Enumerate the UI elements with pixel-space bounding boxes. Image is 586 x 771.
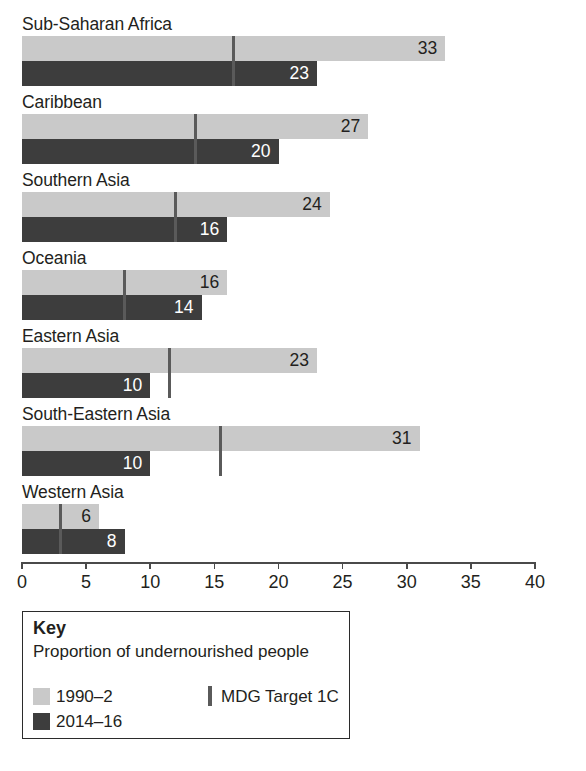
bar-track: 16 bbox=[0, 217, 586, 242]
chart-group: Oceania1614 bbox=[0, 248, 586, 320]
bar-value-label: 33 bbox=[413, 36, 437, 61]
category-label: Western Asia bbox=[22, 482, 124, 502]
bar-value-label: 20 bbox=[247, 139, 271, 164]
mdg-target-marker bbox=[194, 114, 197, 164]
chart-key: Key Proportion of undernourished people … bbox=[22, 611, 350, 739]
bar-dark bbox=[22, 61, 317, 86]
axis-tick bbox=[278, 562, 280, 569]
bar-value-label: 23 bbox=[285, 348, 309, 373]
bar-value-label: 10 bbox=[118, 451, 142, 476]
key-item-1990-label: 1990–2 bbox=[56, 687, 113, 706]
key-item-mdg-target: MDG Target 1C bbox=[208, 686, 339, 708]
bar-track: 10 bbox=[0, 451, 586, 476]
bar-track: 23 bbox=[0, 61, 586, 86]
bar-dark bbox=[22, 139, 279, 164]
category-label: Sub-Saharan Africa bbox=[22, 14, 172, 34]
category-label: South-Eastern Asia bbox=[22, 404, 170, 424]
chart-group: Sub-Saharan Africa3323 bbox=[0, 14, 586, 86]
key-description: Proportion of undernourished people bbox=[33, 641, 333, 663]
bar-track: 24 bbox=[0, 192, 586, 217]
bar-track: 31 bbox=[0, 426, 586, 451]
bar-value-label: 24 bbox=[298, 192, 322, 217]
key-item-1990: 1990–2 bbox=[33, 686, 113, 708]
axis-tick bbox=[534, 562, 536, 569]
axis-tick-label: 10 bbox=[140, 571, 160, 593]
axis-tick-label: 40 bbox=[525, 571, 545, 593]
chart-group: Eastern Asia2310 bbox=[0, 326, 586, 398]
axis-tick bbox=[85, 562, 87, 569]
mdg-target-marker-icon bbox=[208, 686, 212, 706]
bar-track: 23 bbox=[0, 348, 586, 373]
category-label: Oceania bbox=[22, 248, 86, 268]
axis-tick bbox=[406, 562, 408, 569]
axis-tick bbox=[342, 562, 344, 569]
category-label: Caribbean bbox=[22, 92, 102, 112]
axis-tick bbox=[214, 562, 216, 569]
key-item-2014: 2014–16 bbox=[33, 711, 122, 733]
axis-tick-label: 20 bbox=[268, 571, 288, 593]
bar-track: 6 bbox=[0, 504, 586, 529]
bar-track: 33 bbox=[0, 36, 586, 61]
bar-value-label: 8 bbox=[93, 529, 117, 554]
undernourishment-bar-chart: Sub-Saharan Africa3323Caribbean2720South… bbox=[0, 0, 586, 771]
mdg-target-marker bbox=[59, 504, 62, 554]
x-axis: 0510152025303540 bbox=[0, 562, 586, 602]
category-label: Southern Asia bbox=[22, 170, 130, 190]
mdg-target-marker bbox=[123, 270, 126, 320]
bar-track: 10 bbox=[0, 373, 586, 398]
axis-tick-label: 25 bbox=[333, 571, 353, 593]
key-item-2014-label: 2014–16 bbox=[56, 712, 122, 731]
bar-value-label: 16 bbox=[195, 270, 219, 295]
chart-group: Southern Asia2416 bbox=[0, 170, 586, 242]
key-item-mdg-label: MDG Target 1C bbox=[221, 687, 339, 706]
axis-tick-label: 15 bbox=[204, 571, 224, 593]
key-title: Key bbox=[33, 617, 66, 639]
category-label: Eastern Asia bbox=[22, 326, 119, 346]
bar-value-label: 10 bbox=[118, 373, 142, 398]
axis-tick-label: 0 bbox=[17, 571, 27, 593]
bar-value-label: 23 bbox=[285, 61, 309, 86]
swatch-1990-icon bbox=[33, 688, 50, 705]
bar-value-label: 31 bbox=[388, 426, 412, 451]
mdg-target-marker bbox=[232, 36, 235, 86]
swatch-2014-icon bbox=[33, 713, 50, 730]
mdg-target-marker bbox=[168, 348, 171, 398]
axis-tick bbox=[149, 562, 151, 569]
bar-track: 14 bbox=[0, 295, 586, 320]
axis-tick-label: 35 bbox=[461, 571, 481, 593]
bar-track: 27 bbox=[0, 114, 586, 139]
chart-group: South-Eastern Asia3110 bbox=[0, 404, 586, 476]
chart-group: Caribbean2720 bbox=[0, 92, 586, 164]
bar-value-label: 16 bbox=[195, 217, 219, 242]
axis-tick-label: 5 bbox=[81, 571, 91, 593]
bar-value-label: 14 bbox=[170, 295, 194, 320]
axis-tick bbox=[21, 562, 23, 569]
mdg-target-marker bbox=[219, 426, 222, 476]
bar-track: 20 bbox=[0, 139, 586, 164]
chart-group: Western Asia68 bbox=[0, 482, 586, 554]
bar-value-label: 6 bbox=[67, 504, 91, 529]
mdg-target-marker bbox=[174, 192, 177, 242]
axis-tick bbox=[470, 562, 472, 569]
bar-track: 16 bbox=[0, 270, 586, 295]
axis-tick-label: 30 bbox=[397, 571, 417, 593]
bar-track: 8 bbox=[0, 529, 586, 554]
bar-value-label: 27 bbox=[336, 114, 360, 139]
